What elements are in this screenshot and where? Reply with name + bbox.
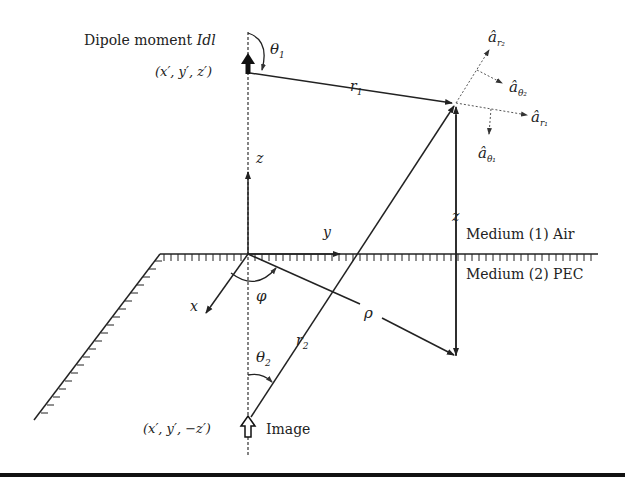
- theta2-label: θ2: [256, 348, 271, 366]
- unit-vector-ar2: [456, 50, 489, 103]
- a-theta1-label: âθ₁: [478, 144, 496, 162]
- rho-vector-part2: [382, 318, 454, 355]
- source-coords-label: (x′, y′, z′): [155, 64, 212, 79]
- image-label: Image: [266, 421, 310, 437]
- phi-label: φ: [256, 287, 267, 305]
- bottom-rule: [0, 473, 625, 477]
- phi-arc: [231, 268, 276, 281]
- r2-vector: [251, 106, 454, 417]
- a-r1-label: âr₁: [531, 108, 548, 126]
- medium2-label: Medium (2) PEC: [466, 266, 583, 282]
- z-axis-label: z: [256, 150, 263, 166]
- dipole-arrow-icon: [241, 53, 255, 74]
- dipole-moment-label: Dipole moment Idl: [84, 32, 216, 48]
- x-axis-arrow: [206, 254, 248, 313]
- unit-vector-ar1: [456, 103, 527, 115]
- theta1-label: θ1: [270, 40, 285, 58]
- r2-label: r2: [296, 332, 308, 348]
- theta2-arc: [248, 374, 272, 382]
- a-r2-label: âr₂: [488, 28, 505, 46]
- image-dipole-arrow-icon: [241, 416, 255, 437]
- image-coords-label: (x′, y′, −z′): [143, 421, 211, 436]
- z-height-label: z: [452, 208, 459, 224]
- rho-label: ρ: [364, 304, 373, 322]
- unit-vector-atheta1: [489, 109, 491, 134]
- medium1-label: Medium (1) Air: [466, 226, 574, 242]
- a-theta2-label: âθ₂: [509, 78, 527, 96]
- unit-vector-atheta2: [477, 70, 502, 83]
- x-axis-label: x: [190, 298, 198, 314]
- y-axis-label: y: [323, 224, 331, 240]
- r1-label: r1: [350, 78, 362, 94]
